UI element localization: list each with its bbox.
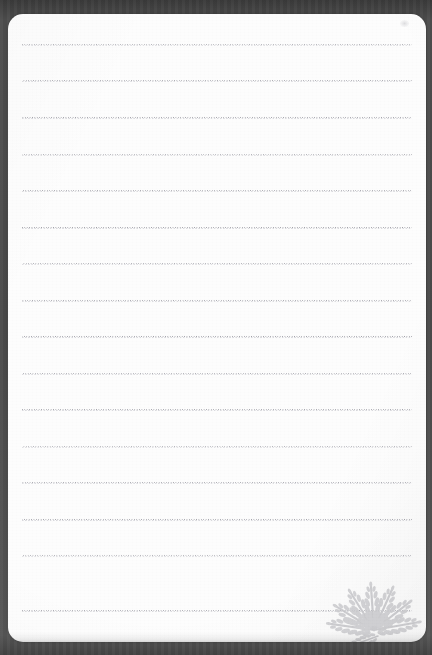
ruled-lines-group [8, 14, 426, 642]
ruled-line [22, 227, 412, 229]
ruled-line [22, 519, 412, 521]
ruled-line [22, 117, 412, 119]
ruled-line [22, 555, 412, 557]
scanned-page-canvas [0, 0, 432, 655]
ruled-line [22, 482, 412, 484]
ruled-line [22, 154, 412, 156]
ruled-line [22, 446, 412, 448]
ruled-line [22, 263, 412, 265]
ruled-line [22, 409, 412, 411]
notebook-paper [8, 14, 426, 642]
ruled-line [22, 610, 412, 612]
ruled-line [22, 80, 412, 82]
ruled-line [22, 373, 412, 375]
ruled-line [22, 336, 412, 338]
ruled-line [22, 44, 412, 46]
ruled-line [22, 190, 412, 192]
ruled-line [22, 300, 412, 302]
